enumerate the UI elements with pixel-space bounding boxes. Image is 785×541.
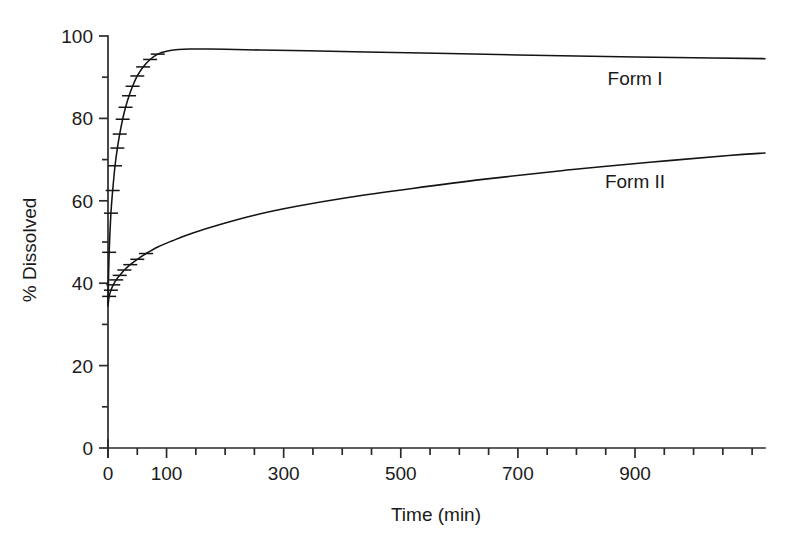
data-curve-form-ii xyxy=(108,153,765,306)
dissolution-chart-figure: 0204060801000100300500700900 Form IForm … xyxy=(0,0,785,541)
x-axis-tick-label: 700 xyxy=(502,463,534,484)
y-axis-tick-label: 100 xyxy=(61,26,93,47)
y-axis-title: % Dissolved xyxy=(19,198,40,303)
y-axis-tick-label: 20 xyxy=(72,356,93,377)
x-axis-tick-label: 500 xyxy=(385,463,417,484)
y-axis-tick-label: 80 xyxy=(72,108,93,129)
series-label-form-ii: Form II xyxy=(605,171,665,192)
x-axis-tick-label: 300 xyxy=(268,463,300,484)
error-bars-group xyxy=(102,54,165,296)
y-axis-tick-label: 60 xyxy=(72,191,93,212)
axis-tick-labels-group: 0204060801000100300500700900 xyxy=(61,26,651,484)
chart-canvas: 0204060801000100300500700900 Form IForm … xyxy=(0,0,785,541)
x-axis-tick-label: 100 xyxy=(151,463,183,484)
series-label-form-i: Form I xyxy=(608,68,663,89)
data-curve-form-i xyxy=(108,49,765,304)
axis-ticks-group xyxy=(99,36,752,458)
data-curves-group xyxy=(108,49,765,306)
x-axis-title: Time (min) xyxy=(391,504,481,525)
y-axis-tick-label: 40 xyxy=(72,273,93,294)
series-labels-group: Form IForm II xyxy=(605,68,665,192)
y-axis-tick-label: 0 xyxy=(82,438,93,459)
x-axis-tick-label: 900 xyxy=(619,463,651,484)
x-axis-tick-label: 0 xyxy=(103,463,114,484)
axes-group xyxy=(108,36,765,448)
